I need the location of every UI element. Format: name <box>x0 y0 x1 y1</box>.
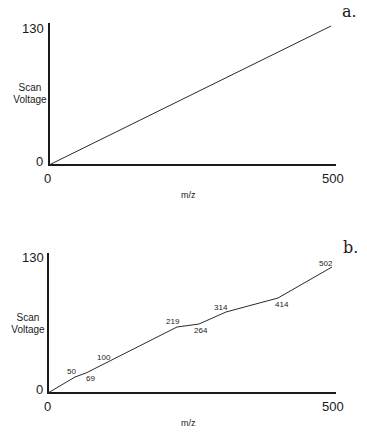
point-label-314: 314 <box>214 304 227 312</box>
panel-letter: b. <box>343 238 358 257</box>
chart-panel-b: b. 130 0 0 500 Scan Voltage m/z 50 69 10… <box>0 220 367 442</box>
point-label-100: 100 <box>97 354 110 362</box>
chart-b-plot <box>0 220 367 442</box>
y-tick-bottom: 0 <box>36 155 43 168</box>
point-label-502: 502 <box>319 260 332 268</box>
x-tick-right: 500 <box>322 400 344 413</box>
y-tick-top: 130 <box>22 22 44 35</box>
y-tick-bottom: 0 <box>36 383 43 396</box>
y-axis-label: Scan Voltage <box>10 82 50 106</box>
point-label-264: 264 <box>194 327 207 335</box>
scan-line <box>49 26 331 165</box>
panel-letter: a. <box>342 2 357 21</box>
y-axis-label: Scan Voltage <box>8 312 48 336</box>
chart-a-plot <box>0 0 367 220</box>
y-axis-label-line2: Voltage <box>8 324 48 336</box>
y-tick-top: 130 <box>22 251 44 264</box>
point-label-50: 50 <box>67 368 76 376</box>
x-axis-label: m/z <box>181 190 196 200</box>
chart-panel-a: a. 130 0 0 500 Scan Voltage m/z <box>0 0 367 220</box>
y-axis-label-line1: Scan <box>10 82 50 94</box>
point-label-69: 69 <box>86 375 95 383</box>
point-label-219: 219 <box>166 318 179 326</box>
y-axis-label-line1: Scan <box>8 312 48 324</box>
x-tick-left: 0 <box>44 400 51 413</box>
x-axis-label: m/z <box>181 418 196 428</box>
y-axis-label-line2: Voltage <box>10 94 50 106</box>
x-tick-left: 0 <box>44 172 51 185</box>
x-tick-right: 500 <box>322 172 344 185</box>
point-label-414: 414 <box>275 301 288 309</box>
